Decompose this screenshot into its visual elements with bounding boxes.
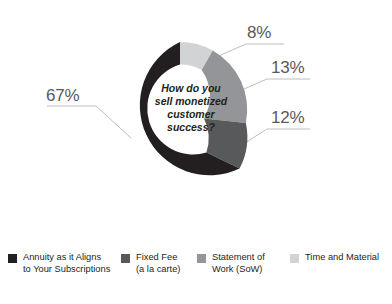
legend-item-statement-of-work[interactable]: Statement of Work (SoW)	[197, 252, 285, 275]
slice-value-label-statement-of-work: 13%	[271, 59, 304, 76]
legend-swatch-time-and-material	[290, 254, 299, 263]
leader-line-67	[47, 106, 131, 138]
leader-line-8	[214, 44, 284, 58]
legend-swatch-fixed-fee	[121, 254, 130, 263]
donut-chart-figure: 67% 8% 13% 12% How do you sell monetized…	[0, 0, 392, 304]
slice-value-label-fixed-fee: 12%	[271, 109, 304, 126]
slice-value-label-annuity: 67%	[46, 87, 79, 104]
legend-label-time-and-material: Time and Material	[305, 252, 379, 264]
legend-item-time-and-material[interactable]: Time and Material	[290, 252, 390, 264]
center-question-line-1: How do you	[146, 82, 236, 95]
legend-label-annuity: Annuity as it Aligns to Your Subscriptio…	[23, 252, 110, 275]
center-question-line-2: sell monetized	[146, 95, 236, 108]
donut-center-question: How do you sell monetized customer succe…	[146, 82, 236, 134]
legend-label-statement-of-work: Statement of Work (SoW)	[212, 252, 265, 275]
legend-swatch-statement-of-work	[197, 254, 206, 263]
chart-legend: Annuity as it Aligns to Your Subscriptio…	[0, 248, 392, 300]
slice-value-label-time-and-material: 8%	[247, 24, 271, 41]
center-question-line-4: success?	[146, 121, 236, 134]
legend-item-fixed-fee[interactable]: Fixed Fee (a la carte)	[121, 252, 193, 275]
leader-line-13	[237, 79, 310, 92]
legend-item-annuity[interactable]: Annuity as it Aligns to Your Subscriptio…	[8, 252, 116, 275]
donut-plot-area: 67% 8% 13% 12% How do you sell monetized…	[0, 0, 392, 240]
legend-label-fixed-fee: Fixed Fee (a la carte)	[136, 252, 180, 275]
center-question-line-3: customer	[146, 108, 236, 121]
legend-swatch-annuity	[8, 254, 17, 263]
